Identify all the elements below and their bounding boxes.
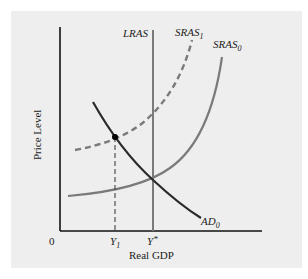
- y1-tick-label: Y1: [110, 235, 120, 250]
- x-axis-label: Real GDP: [129, 249, 174, 261]
- y-axis-label: Price Level: [31, 110, 43, 160]
- as-ad-diagram: LRAS SRAS1 SRAS0 AD0 0 Y1 Y* Real GDP Pr…: [0, 0, 308, 279]
- sras0-curve: [68, 57, 222, 196]
- ystar-tick-label: Y*: [147, 234, 158, 247]
- origin-label: 0: [49, 235, 55, 247]
- sras0-label: SRAS0: [213, 38, 241, 53]
- sras1-label: SRAS1: [175, 26, 203, 41]
- ad0-curve: [93, 102, 201, 218]
- lras-label: LRAS: [122, 27, 149, 39]
- sras1-curve: [75, 40, 192, 150]
- ad0-label: AD0: [200, 215, 220, 230]
- short-run-equilibrium-point: [112, 134, 118, 140]
